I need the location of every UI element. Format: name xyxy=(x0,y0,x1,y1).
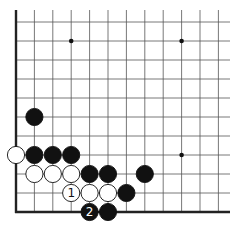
black-stone xyxy=(118,184,135,201)
black-stone-icon xyxy=(26,146,43,163)
white-stone-icon xyxy=(63,165,80,182)
black-stone xyxy=(26,146,43,163)
black-stone-icon xyxy=(99,203,116,220)
black-stone xyxy=(26,108,43,125)
white-stone-icon xyxy=(81,184,98,201)
go-board: 12 xyxy=(0,0,237,231)
black-stone-icon xyxy=(136,165,153,182)
black-stone xyxy=(44,146,61,163)
grid-lines xyxy=(15,10,230,213)
white-stone-move-1: 1 xyxy=(63,184,80,201)
black-stone-icon xyxy=(118,184,135,201)
stones: 12 xyxy=(7,108,153,220)
black-stone xyxy=(63,146,80,163)
black-stone xyxy=(136,165,153,182)
move-number-label: 2 xyxy=(86,205,94,219)
black-stone-move-2: 2 xyxy=(81,203,98,220)
white-stone xyxy=(81,184,98,201)
white-stone xyxy=(26,165,43,182)
black-stone-icon xyxy=(81,165,98,182)
black-stone xyxy=(99,203,116,220)
white-stone-icon xyxy=(99,184,116,201)
white-stone xyxy=(7,146,24,163)
black-stone-icon xyxy=(26,108,43,125)
star-point-icon xyxy=(69,39,74,44)
move-number-label: 1 xyxy=(67,186,75,200)
star-point-icon xyxy=(179,39,184,44)
black-stone-icon xyxy=(99,165,116,182)
white-stone xyxy=(63,165,80,182)
white-stone xyxy=(44,165,61,182)
white-stone-icon xyxy=(26,165,43,182)
star-point-icon xyxy=(179,153,184,158)
white-stone xyxy=(99,184,116,201)
black-stone xyxy=(81,165,98,182)
black-stone xyxy=(99,165,116,182)
black-stone-icon xyxy=(44,146,61,163)
white-stone-icon xyxy=(7,146,24,163)
white-stone-icon xyxy=(44,165,61,182)
black-stone-icon xyxy=(63,146,80,163)
